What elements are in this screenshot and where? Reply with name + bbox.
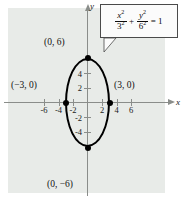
point-label-bottom-vertex: (0, −6) bbox=[47, 180, 73, 190]
point-marker-left-covertex bbox=[63, 100, 69, 106]
x-axis-arrow-icon bbox=[168, 99, 175, 105]
ellipse-curve bbox=[65, 58, 110, 147]
y-denominator: 62 bbox=[137, 22, 149, 31]
y-axis-label: y bbox=[90, 1, 94, 11]
point-label-left-covertex: (−3, 0) bbox=[11, 81, 37, 91]
point-marker-right-covertex bbox=[107, 100, 113, 106]
plus-operator: + bbox=[129, 16, 134, 26]
point-marker-bottom-vertex bbox=[85, 145, 91, 151]
point-marker-top-vertex bbox=[85, 55, 91, 61]
ellipse-equation: x2 32 + y2 62 = 1 bbox=[114, 11, 164, 31]
equation-callout-box: x2 32 + y2 62 = 1 bbox=[100, 4, 178, 38]
x-term-fraction: x2 32 bbox=[115, 11, 127, 31]
y-term-fraction: y2 62 bbox=[137, 11, 149, 31]
x-axis-label: x bbox=[176, 97, 180, 107]
x-denominator: 32 bbox=[115, 22, 127, 31]
ellipse-figure: x y -6 -4 -2 2 4 6 4 2 -2 -4 (0, 6) (0, … bbox=[0, 0, 188, 201]
point-label-right-covertex: (3, 0) bbox=[114, 81, 135, 91]
point-label-top-vertex: (0, 6) bbox=[44, 38, 65, 48]
x-tick-label: 6 bbox=[121, 106, 141, 115]
equals-one: = 1 bbox=[151, 16, 163, 26]
